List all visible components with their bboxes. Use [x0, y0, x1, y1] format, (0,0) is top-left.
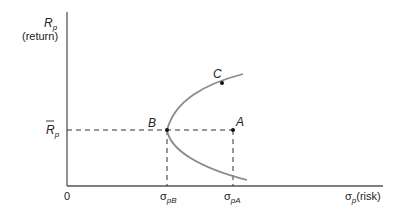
point-a-label: A: [235, 115, 244, 129]
sigma-pa-sub: pA: [230, 196, 241, 205]
point-c-marker: [220, 81, 224, 85]
y-axis-symbol-r: R: [44, 16, 53, 30]
origin-label: 0: [64, 190, 70, 202]
sigma-pb-label: σpB: [160, 190, 177, 205]
sigma-pb-sub: pB: [166, 196, 177, 205]
point-a-marker: [231, 128, 235, 132]
x-axis-label: σp(risk): [345, 190, 381, 205]
efficient-frontier-curve: [167, 74, 247, 180]
y-axis-label: (return): [22, 30, 58, 42]
r-bar-symbol: R: [46, 123, 55, 137]
r-bar-sub: p: [54, 130, 60, 139]
point-b-label: B: [148, 116, 156, 130]
point-c-label: C: [213, 67, 222, 81]
point-b-marker: [165, 128, 169, 132]
r-bar-label: Rp: [46, 123, 60, 139]
x-axis-text: (risk): [356, 190, 380, 202]
sigma-pa-label: σpA: [224, 190, 241, 205]
frontier-diagram: C B A Rp (return) Rp 0 σpB σpA σp(risk): [0, 0, 404, 209]
